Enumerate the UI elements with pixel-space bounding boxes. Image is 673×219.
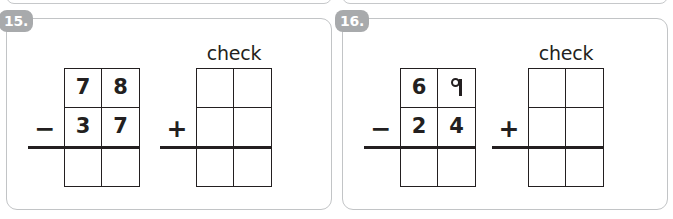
plus-operator-icon: + (497, 108, 521, 148)
difference-ones-cell[interactable] (438, 147, 475, 186)
check-addend-one-tens-cell[interactable] (529, 69, 566, 108)
problem-number-badge-16: 16. (335, 10, 369, 32)
minuend-tens-cell[interactable]: 6 (401, 69, 438, 108)
minuend-ones-cell[interactable]: 8 (102, 69, 139, 108)
digit-nine-glyph (451, 77, 463, 98)
subtraction-block-15: − 7 8 3 7 (64, 68, 140, 187)
check-block-15: + (196, 68, 272, 187)
check-grid-15 (196, 68, 272, 187)
check-sum-tens-cell[interactable] (197, 147, 234, 186)
minuend-tens-cell[interactable]: 7 (65, 69, 102, 108)
check-answer-rule (160, 146, 272, 149)
answer-rule (364, 146, 476, 149)
minus-operator-icon: − (369, 108, 393, 148)
subtraction-grid-16: 6 2 4 (400, 68, 476, 187)
check-label-16: check (528, 44, 604, 63)
check-addend-two-ones-cell[interactable] (566, 108, 603, 147)
difference-tens-cell[interactable] (401, 147, 438, 186)
minus-operator-icon: − (33, 108, 57, 148)
check-sum-ones-cell[interactable] (234, 147, 271, 186)
subtrahend-tens-cell[interactable]: 3 (65, 108, 102, 147)
check-addend-two-ones-cell[interactable] (234, 108, 271, 147)
check-addend-one-tens-cell[interactable] (197, 69, 234, 108)
check-addend-two-tens-cell[interactable] (529, 108, 566, 147)
previous-row-card-right (342, 0, 668, 4)
check-grid-16 (528, 68, 604, 187)
problem-body-15: − 7 8 3 7 check + (7, 19, 331, 209)
problem-card-16[interactable]: 16. − 6 2 4 check + (342, 18, 668, 210)
subtrahend-tens-cell[interactable]: 2 (401, 108, 438, 147)
subtraction-grid-15: 7 8 3 7 (64, 68, 140, 187)
check-addend-one-ones-cell[interactable] (566, 69, 603, 108)
plus-operator-icon: + (165, 108, 189, 148)
difference-ones-cell[interactable] (102, 147, 139, 186)
check-sum-ones-cell[interactable] (566, 147, 603, 186)
check-block-16: + (528, 68, 604, 187)
subtraction-block-16: − 6 2 4 (400, 68, 476, 187)
check-label-15: check (196, 44, 272, 63)
previous-row-card-left (6, 0, 332, 4)
problem-card-15[interactable]: 15. − 7 8 3 7 check + (6, 18, 332, 210)
check-addend-one-ones-cell[interactable] (234, 69, 271, 108)
check-sum-tens-cell[interactable] (529, 147, 566, 186)
subtrahend-ones-cell[interactable]: 7 (102, 108, 139, 147)
subtrahend-ones-cell[interactable]: 4 (438, 108, 475, 147)
check-answer-rule (492, 146, 604, 149)
problem-number-badge-15: 15. (0, 10, 33, 32)
difference-tens-cell[interactable] (65, 147, 102, 186)
answer-rule (28, 146, 140, 149)
minuend-ones-cell[interactable] (438, 69, 475, 108)
check-addend-two-tens-cell[interactable] (197, 108, 234, 147)
problem-body-16: − 6 2 4 check + (343, 19, 667, 209)
